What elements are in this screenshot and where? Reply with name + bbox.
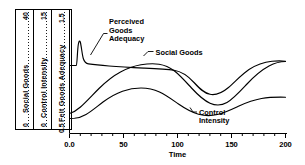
annotation-social-goods: Social Goods xyxy=(156,48,203,57)
series-control-intensity xyxy=(70,88,286,119)
y-axis-control-intensity: 15 Control Intensity 0 xyxy=(39,12,48,127)
leader-social-goods xyxy=(144,52,154,57)
control-intensity-axis-title: Control Intensity xyxy=(39,58,48,119)
felt-goods-adequacy-axis-title: Felt Goods Adequacy xyxy=(57,45,66,122)
x-tick-label-1: 50 xyxy=(119,140,127,149)
social-goods-max-label: 40 xyxy=(22,12,29,20)
x-axis-title: Time xyxy=(169,150,187,159)
leader-perceived-goods-adequacy xyxy=(91,34,108,56)
x-axis-group: 0.0 50 100 150 200 Time xyxy=(64,134,292,160)
x-tick-label-2: 100 xyxy=(171,140,184,149)
annotation-control-line-2: Intensity xyxy=(199,116,230,125)
y-axis-social-goods: 40 Social Goods 0 xyxy=(21,12,30,127)
felt-goods-adequacy-min-label: 0.5 xyxy=(58,123,65,133)
annotation-perceived-line-3: Adequacy xyxy=(109,34,145,43)
control-intensity-min-label: 0 xyxy=(40,123,47,127)
x-tick-label-4: 200 xyxy=(279,140,292,149)
social-goods-min-label: 0 xyxy=(22,123,29,127)
series-social-goods xyxy=(70,62,286,114)
annotation-perceived-goods-adequacy: Perceived Goods Adequacy xyxy=(109,17,145,43)
control-intensity-max-label: 15 xyxy=(40,12,47,20)
chart-canvas: 40 Social Goods 0 15 Control Intensity 0… xyxy=(0,0,305,165)
figure-root: 40 Social Goods 0 15 Control Intensity 0… xyxy=(0,0,305,165)
felt-goods-adequacy-max-label: 1.5 xyxy=(58,13,65,23)
x-tick-label-0: 0.0 xyxy=(64,140,75,149)
y-axis-felt-goods-adequacy: 1.5 Felt Goods Adequacy 0.5 xyxy=(57,13,66,133)
social-goods-axis-title: Social Goods xyxy=(21,65,30,113)
x-tick-label-3: 150 xyxy=(225,140,238,149)
annotation-control-intensity: Control Intensity xyxy=(199,108,230,125)
